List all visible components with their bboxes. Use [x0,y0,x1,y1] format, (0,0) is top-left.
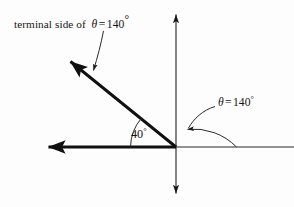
reference-angle-label-value: 40 [131,127,143,141]
terminal-side-label-equals: = [97,18,106,31]
terminal-side-label-degree: ° [125,13,130,26]
theta-angle-label: θ=140° [218,96,254,108]
terminal-side-label-value: 140 [107,18,125,31]
reference-angle-label-degree: ° [143,126,147,136]
theta-angle-arc [188,129,237,147]
theta-angle-label-degree: ° [250,95,253,104]
terminal-side-label-prefix: terminal side of [14,18,86,30]
theta-angle-label-theta: θ [218,96,224,109]
theta-angle-label-equals: = [224,96,233,109]
terminal-label-leader [94,31,104,71]
theta-label-leader [189,107,216,129]
terminal-side-ray [71,62,177,148]
angle-diagram-figure: terminal side of θ=140° θ=140° 40° [0,0,294,207]
reference-angle-label: 40° [131,127,147,140]
theta-angle-label-value: 140 [233,96,250,109]
terminal-side-label: terminal side of θ=140° [14,14,129,30]
